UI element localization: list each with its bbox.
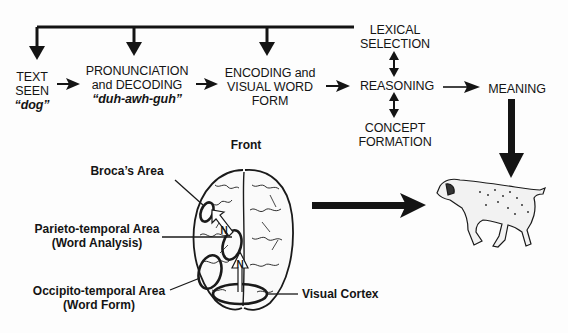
right-arrow-icon [326,80,350,92]
concept-formation-label: CONCEPT FORMATION [356,121,434,149]
brocas-area-label: Broca’s Area [82,164,172,178]
lexical-selection-label: LEXICAL SELECTION [356,23,434,51]
down-arrow-icon [259,42,275,56]
brain-illustration [162,170,298,310]
phonetic-example: “duh-awh-guh” [78,92,196,106]
dog-illustration [437,179,545,247]
front-label: Front [226,138,266,152]
pathway-letter: N [234,258,246,272]
meaning-down-arrow-icon [499,99,524,178]
pathway-letter: N [218,224,230,238]
right-arrow-icon [57,78,80,90]
visual-cortex-label: Visual Cortex [302,287,392,301]
occipito-temporal-label: Occipito-temporal Area (Word Form) [26,284,172,312]
reasoning-label: REASONING [352,79,442,93]
parieto-temporal-label: Parieto-temporal Area (Word Analysis) [26,222,168,250]
meaning-label: MEANING [482,82,552,96]
right-arrow-icon [443,81,480,93]
encoding-visual-word-form-label: ENCODING and VISUAL WORD FORM [218,66,322,108]
double-arrow-icon [389,92,399,118]
down-arrow-icon [29,46,45,60]
feedback-line [29,27,354,60]
brain-to-dog-arrow-icon [312,193,426,218]
pronunciation-decoding-label: PRONUNCIATION and DECODING “duh-awh-guh” [78,64,196,106]
down-arrow-icon [126,42,142,56]
reading-process-diagram: TEXT SEEN “dog” PRONUNCIATION and DECODI… [0,0,568,333]
right-arrow-icon [196,78,218,90]
text-seen-label: TEXT SEEN “dog” [6,70,58,112]
example-word: “dog” [6,98,58,112]
double-arrow-icon [389,51,399,77]
